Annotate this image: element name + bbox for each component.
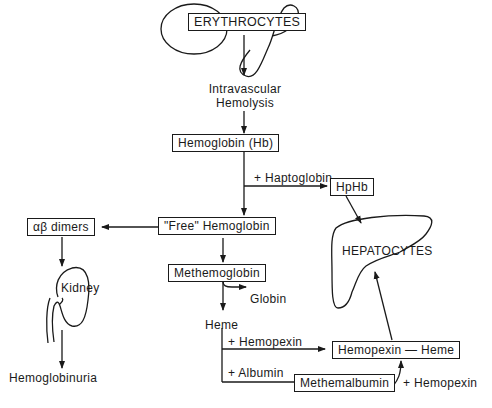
label-plus-haptoglobin: + Haptoglobin [254,171,332,185]
node-erythrocytes: ERYTHROCYTES [188,13,306,31]
node-methemalbumin: Methemalbumin [294,374,395,392]
label-plus-hemopexin-2: + Hemopexin [403,376,477,390]
node-hemopexin-heme: Hemopexin — Heme [332,341,460,359]
node-kidney: Kidney [61,281,100,295]
node-ab-dimers: αβ dimers [27,218,95,236]
hemolysis-line2: Hemolysis [206,96,284,110]
node-methemoglobin: Methemoglobin [168,264,266,282]
node-hemoglobinuria: Hemoglobinuria [9,371,97,385]
node-free-hemoglobin: "Free" Hemoglobin [158,217,276,235]
node-hphb: HpHb [330,178,374,196]
hemolysis-line1: Intravascular [206,82,284,96]
liver-icon [332,216,432,309]
node-intravascular-hemolysis: Intravascular Hemolysis [206,82,284,110]
node-hepatocytes: HEPATOCYTES [342,244,433,258]
node-hemoglobin: Hemoglobin (Hb) [172,134,279,152]
node-heme: Heme [205,318,238,332]
label-plus-hemopexin: + Hemopexin [228,335,302,349]
label-plus-albumin: + Albumin [228,366,284,380]
node-globin: Globin [250,292,287,306]
kidney-icon [47,268,89,343]
